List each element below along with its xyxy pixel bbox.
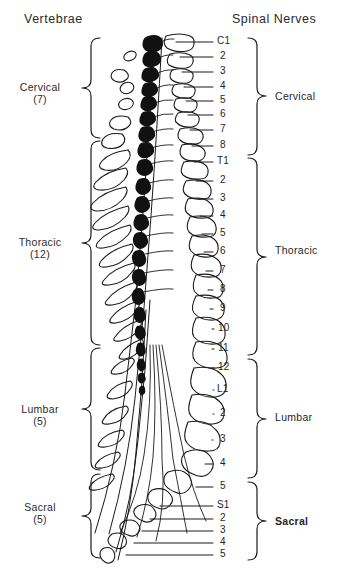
nerve-label-l2: 2 xyxy=(220,407,226,418)
spinal-nerve-braces xyxy=(243,30,273,570)
nerve-label-c7: 7 xyxy=(220,123,226,134)
nerve-group-thoracic: Thoracic xyxy=(275,244,318,256)
vertebrae-group-thoracic: Thoracic (12) xyxy=(8,236,72,260)
nerve-label-t6: 6 xyxy=(220,245,226,256)
nerve-label-l5: 5 xyxy=(220,480,226,491)
nerve-label-c5: 5 xyxy=(220,94,226,105)
nerve-label-c4: 4 xyxy=(220,80,226,91)
vertebrae-group-lumbar-count: (5) xyxy=(8,415,72,427)
nerve-label-t7: 7 xyxy=(220,264,226,275)
vertebrae-group-sacral-count: (5) xyxy=(8,513,72,525)
nerve-label-s4: 4 xyxy=(220,536,226,547)
nerve-label-s1: S1 xyxy=(217,499,230,510)
nerve-label-t4: 4 xyxy=(220,209,226,220)
nerve-label-l4: 4 xyxy=(220,457,226,468)
nerve-label-t10: 10 xyxy=(218,322,230,333)
vertebrae-group-cervical-count: (7) xyxy=(8,93,72,105)
nerve-label-t2: 2 xyxy=(220,174,226,185)
nerve-label-t9: 9 xyxy=(220,302,226,313)
nerve-label-t12: 12 xyxy=(218,361,230,372)
nerve-label-s5: 5 xyxy=(220,548,226,559)
nerve-label-c3: 3 xyxy=(220,65,226,76)
nerve-label-t11: 11 xyxy=(218,342,229,353)
nerve-label-t5: 5 xyxy=(220,227,226,238)
vertebrae-group-sacral: Sacral (5) xyxy=(8,501,72,525)
vertebrae-group-cervical-name: Cervical xyxy=(20,81,60,93)
nerve-label-s2: 2 xyxy=(220,512,226,523)
nerve-label-c8: 8 xyxy=(220,139,226,150)
nerve-label-l1: L1 xyxy=(217,383,229,394)
nerve-label-t1: T1 xyxy=(217,155,229,166)
cauda-equina xyxy=(120,345,206,541)
vertebrae-group-thoracic-name: Thoracic xyxy=(19,236,62,248)
nerve-group-lumbar: Lumbar xyxy=(275,411,312,423)
vertebrae-group-cervical: Cervical (7) xyxy=(8,81,72,105)
vertebrae-group-sacral-name: Sacral xyxy=(24,501,56,513)
vertebrae-group-thoracic-count: (12) xyxy=(8,248,72,260)
nerve-label-c2: 2 xyxy=(220,50,226,61)
nerve-label-c1: C1 xyxy=(217,35,230,46)
nerve-label-s3: 3 xyxy=(220,524,226,535)
nerve-label-t8: 8 xyxy=(220,283,226,294)
vertebrae-group-lumbar-name: Lumbar xyxy=(21,403,58,415)
nerve-group-sacral: Sacral xyxy=(275,515,308,527)
nerve-label-t3: 3 xyxy=(220,192,226,203)
spinal-anatomy-figure: Vertebrae Spinal Nerves xyxy=(0,0,342,573)
nerve-label-c6: 6 xyxy=(220,108,226,119)
vertebrae-braces xyxy=(78,30,108,570)
nerve-group-cervical: Cervical xyxy=(275,90,315,102)
nerve-label-l3: 3 xyxy=(220,433,226,444)
vertebrae-group-lumbar: Lumbar (5) xyxy=(8,403,72,427)
